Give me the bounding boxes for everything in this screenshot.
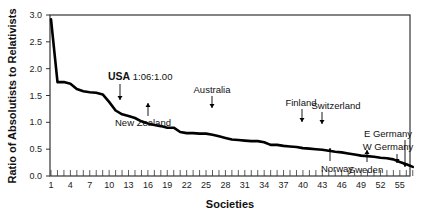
x-tick-label: 31 — [240, 180, 250, 190]
x-tick-label: 13 — [124, 180, 134, 190]
x-tick-label: 22 — [182, 180, 192, 190]
x-tick-label: 37 — [279, 180, 289, 190]
annotation-switzerland-label: Switzerland — [311, 100, 360, 111]
x-tick-label: 34 — [259, 180, 269, 190]
x-tick-label: 55 — [395, 180, 405, 190]
arrowhead-icon — [210, 104, 215, 108]
x-axis-title: Societies — [206, 198, 254, 210]
y-tick-label: 0.0 — [29, 171, 42, 181]
y-tick-label: 1.5 — [29, 91, 42, 101]
x-tick-label: 52 — [375, 180, 385, 190]
x-tick-label: 16 — [143, 180, 153, 190]
y-tick-label: 0.5 — [29, 144, 42, 154]
line-chart: 0.00.51.01.52.02.53.0 147101316192225283… — [0, 0, 422, 220]
annotation-sweden-label: Sweden — [349, 164, 383, 175]
arrowhead-icon — [300, 118, 305, 122]
annotation-w-germany-label: W Germany — [363, 141, 414, 152]
annotation-e-germany-label: E Germany — [364, 128, 412, 139]
y-tick-label: 2.0 — [29, 64, 42, 74]
x-tick-label: 7 — [87, 180, 92, 190]
x-tick-label: 25 — [201, 180, 211, 190]
x-tick-label: 4 — [68, 180, 73, 190]
x-tick-label: 1 — [48, 180, 53, 190]
x-tick-label: 28 — [220, 180, 230, 190]
arrowhead-icon — [146, 103, 151, 107]
x-tick-label: 49 — [356, 180, 366, 190]
annotation-australia: Australia — [194, 84, 232, 108]
arrowhead-icon — [118, 96, 123, 100]
x-tick-label: 43 — [317, 180, 327, 190]
y-axis: 0.00.51.01.52.02.53.0 — [29, 10, 50, 181]
annotations: USA 1:06:1.00New ZealandAustraliaFinland… — [108, 70, 414, 175]
x-tick-label: 46 — [337, 180, 347, 190]
y-tick-label: 3.0 — [29, 10, 42, 20]
x-tick-label: 40 — [298, 180, 308, 190]
annotation-switzerland: Switzerland — [311, 100, 360, 124]
annotation-australia-label: Australia — [194, 84, 232, 95]
annotation-usa-label: USA 1:06:1.00 — [108, 70, 172, 82]
y-tick-label: 1.0 — [29, 117, 42, 127]
y-tick-label: 2.5 — [29, 37, 42, 47]
x-tick-label: 19 — [162, 180, 172, 190]
y-axis-title: Ratio of Absolutists to Relativists — [6, 8, 18, 183]
x-tick-label: 10 — [104, 180, 114, 190]
arrowhead-icon — [320, 120, 325, 124]
annotation-new-zealand-label: New Zealand — [115, 117, 171, 128]
data-series-line — [51, 19, 413, 167]
annotation-usa: USA 1:06:1.00 — [108, 70, 172, 100]
